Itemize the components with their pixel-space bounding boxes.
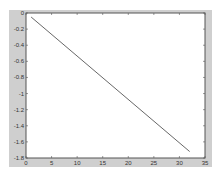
- y-tick-label: 0: [21, 10, 25, 16]
- y-tick-label: -1: [19, 91, 25, 97]
- x-tick-label: 0: [24, 160, 28, 166]
- line-chart: 05101520253035 0-0.2-0.4-0.6-0.8-1-1.2-1…: [0, 0, 215, 176]
- y-tick-label: -0.4: [14, 42, 25, 48]
- y-tick-label: -0.2: [14, 26, 25, 32]
- y-tick-label: -1.6: [14, 139, 25, 145]
- x-tick-label: 15: [99, 160, 106, 166]
- x-tick-label: 30: [176, 160, 183, 166]
- x-tick-label: 10: [74, 160, 81, 166]
- x-tick-label: 35: [202, 160, 209, 166]
- x-tick-label: 25: [151, 160, 158, 166]
- x-tick-label: 5: [50, 160, 54, 166]
- y-tick-label: -1.4: [14, 123, 25, 129]
- y-tick-label: -0.6: [14, 58, 25, 64]
- y-tick-label: -1.8: [14, 155, 25, 161]
- x-tick-label: 20: [125, 160, 132, 166]
- y-tick-label: -0.8: [14, 74, 25, 80]
- plot-area: [26, 13, 205, 158]
- y-tick-label: -1.2: [14, 107, 25, 113]
